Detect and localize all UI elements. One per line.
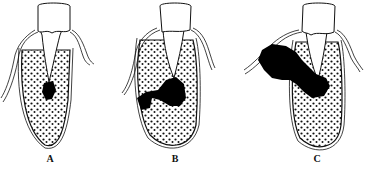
panel-label-c: C xyxy=(307,153,327,164)
panel-b xyxy=(122,3,215,148)
panel-c xyxy=(244,3,363,150)
panel-label-a: A xyxy=(40,153,60,164)
tooth-crown xyxy=(160,3,191,32)
panel-a xyxy=(1,3,94,148)
diagram-canvas xyxy=(0,0,366,171)
tooth-crown xyxy=(38,3,70,33)
panel-label-b: B xyxy=(165,153,185,164)
tooth-crown xyxy=(302,3,335,35)
